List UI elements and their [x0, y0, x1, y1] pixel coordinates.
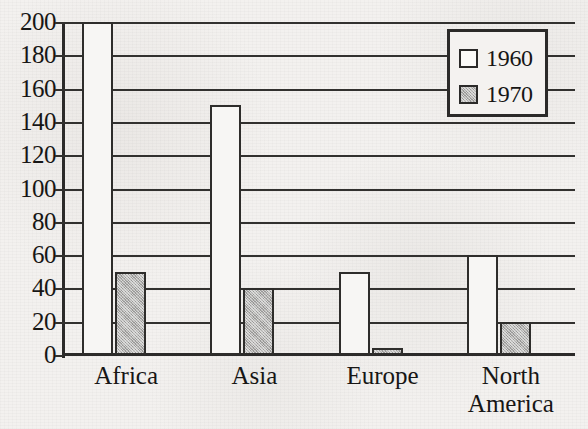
y-axis-tick-label: 40 [2, 275, 56, 300]
legend-swatch-gray-square-icon [459, 85, 478, 104]
y-axis-tick-label: 140 [2, 109, 56, 134]
chart-page: 200180160140120100806040200 AfricaAsiaEu… [0, 0, 588, 429]
x-axis-label-asia: Asia [190, 362, 318, 390]
y-axis-tick-label: 20 [2, 309, 56, 334]
bar-asia-1960 [210, 105, 241, 355]
y-axis-tick-label: 180 [2, 42, 56, 67]
x-axis-label-africa: Africa [62, 362, 190, 390]
bar-europe-1960 [339, 272, 370, 355]
bar-africa-1960 [82, 22, 113, 355]
legend-swatch-white-square-icon [459, 49, 478, 68]
legend-item-1970: 1970 [459, 76, 545, 112]
x-axis-label-north-america: NorthAmerica [447, 362, 575, 418]
bar-north-america-1960 [467, 255, 498, 355]
legend-item-1960: 1960 [459, 40, 545, 76]
bar-asia-1970 [243, 288, 274, 355]
legend-label-1960: 1960 [486, 46, 533, 70]
y-axis-tick-label: 80 [2, 209, 56, 234]
y-axis-tick-label: 0 [2, 342, 56, 367]
y-axis-tick-label: 120 [2, 142, 56, 167]
y-axis-tick-label: 60 [2, 242, 56, 267]
y-axis-tick-mark [55, 355, 63, 357]
legend-label-1970: 1970 [486, 82, 533, 106]
y-axis-tick-label: 100 [2, 176, 56, 201]
y-axis-tick-label: 160 [2, 76, 56, 101]
y-axis-tick-labels: 200180160140120100806040200 [0, 22, 56, 355]
y-axis-tick-label: 200 [2, 9, 56, 34]
bar-north-america-1970 [500, 322, 531, 355]
x-axis-label-europe: Europe [319, 362, 447, 390]
bar-europe-1970 [372, 348, 403, 355]
bar-africa-1970 [115, 272, 146, 355]
chart-legend: 1960 1970 [447, 29, 548, 117]
